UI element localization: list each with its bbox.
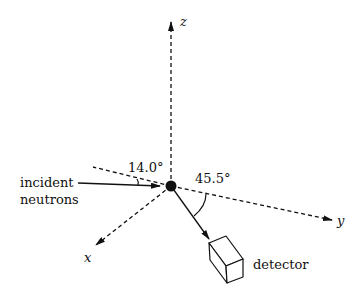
z-axis-label: z — [179, 14, 187, 29]
sample-dot — [166, 181, 177, 192]
x-axis — [96, 186, 171, 245]
detector-label: detector — [253, 257, 309, 272]
incident-label-line2: neutrons — [20, 192, 79, 207]
detector-icon — [209, 236, 243, 283]
incident-label-line1: incident — [20, 175, 74, 190]
scattering-geometry-diagram: z y x incident neutrons 14.0° 45.5° dete… — [0, 0, 361, 295]
incident-angle-arc — [137, 179, 138, 185]
y-axis-label: y — [336, 213, 345, 228]
scattered-beam-arrow — [171, 186, 209, 239]
detector-angle-arc — [194, 194, 206, 216]
incident-beam-arrow — [78, 183, 160, 186]
incident-angle-label: 14.0° — [128, 160, 163, 175]
detector-angle-label: 45.5° — [195, 171, 230, 186]
x-axis-label: x — [84, 250, 92, 265]
